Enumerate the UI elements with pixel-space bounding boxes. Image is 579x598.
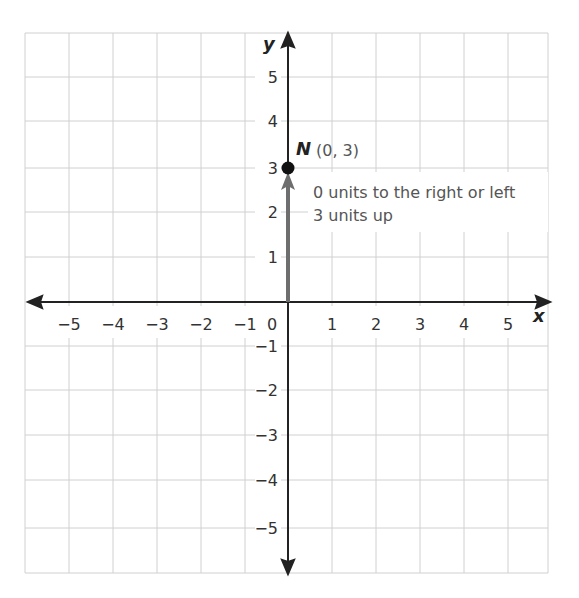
svg-text:3: 3 (268, 159, 278, 178)
svg-text:1: 1 (268, 248, 278, 267)
y-axis (282, 33, 294, 574)
svg-text:−1: −1 (233, 315, 257, 334)
svg-text:4: 4 (268, 112, 278, 131)
svg-text:2: 2 (268, 203, 278, 222)
point-name: N (296, 138, 311, 159)
svg-text:−4: −4 (101, 315, 125, 334)
svg-text:2: 2 (371, 315, 381, 334)
coordinate-plane: −5 −4 −3 −2 −1 0 1 2 3 4 5 x 5 4 3 2 1 −… (0, 0, 579, 598)
svg-text:−3: −3 (254, 426, 278, 445)
annotation-vertical: 3 units up (313, 206, 393, 225)
svg-text:−2: −2 (189, 315, 213, 334)
svg-text:−5: −5 (57, 315, 81, 334)
svg-text:−1: −1 (254, 337, 278, 356)
x-axis-label: x (532, 305, 546, 326)
svg-text:−3: −3 (145, 315, 169, 334)
svg-text:4: 4 (459, 315, 469, 334)
annotation-horizontal: 0 units to the right or left (313, 183, 515, 202)
point-N (282, 162, 295, 175)
y-axis-label: y (263, 33, 276, 54)
svg-text:−2: −2 (254, 381, 278, 400)
svg-text:5: 5 (503, 315, 513, 334)
point-coords: (0, 3) (316, 141, 359, 160)
svg-text:3: 3 (415, 315, 425, 334)
svg-text:−5: −5 (254, 519, 278, 538)
svg-text:5: 5 (268, 68, 278, 87)
svg-text:−4: −4 (254, 471, 278, 490)
svg-text:0: 0 (267, 315, 277, 334)
vector-arrow (281, 172, 295, 302)
svg-text:1: 1 (327, 315, 337, 334)
